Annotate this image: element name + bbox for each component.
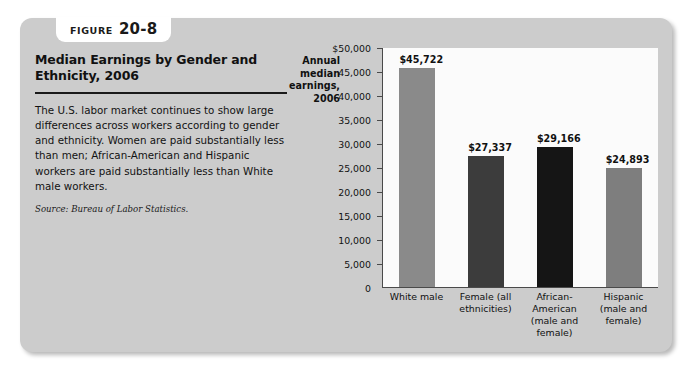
bar: $29,166 [537,147,573,287]
y-axis-tick-label: 5,000 [344,259,371,270]
y-axis-tick-label: 20,000 [338,187,371,198]
bar-value-label: $29,166 [537,133,581,144]
figure-label-word: Figure [70,25,113,36]
page-title: Median Earnings by Gender and Ethnicity,… [35,52,287,84]
bar-group: $27,337 [452,48,521,287]
bar: $27,337 [468,156,504,287]
figure-source: Source: Bureau of Labor Statistics. [35,204,287,214]
y-axis-tick-label: 35,000 [338,115,371,126]
bar-chart: 05,00010,00015,00020,00025,00030,00035,0… [325,48,658,338]
y-axis-tick-label: 25,000 [338,163,371,174]
figure-card: Figure 20-8 Median Earnings by Gender an… [20,18,672,352]
bar: $24,893 [606,168,642,287]
bar-value-label: $27,337 [468,142,512,153]
y-axis-tick-label: 45,000 [338,67,371,78]
y-axis-tick-label: 15,000 [338,211,371,222]
figure-number: 20-8 [119,20,157,38]
figure-badge: Figure 20-8 [56,17,171,42]
y-axis-tick-label: 0 [365,283,371,294]
bar-group: $45,722 [383,48,452,287]
figure-description: The U.S. labor market continues to show … [35,103,287,194]
y-axis-tick-label: 30,000 [338,139,371,150]
bar-group: $29,166 [521,48,590,287]
bar-value-label: $24,893 [606,154,650,165]
y-axis-tick-label: 10,000 [338,235,371,246]
bar-group: $24,893 [589,48,658,287]
figure-text-column: Median Earnings by Gender and Ethnicity,… [35,52,287,223]
y-axis-tick-label: $50,000 [332,43,371,54]
bar-value-label: $45,722 [399,54,443,65]
x-axis: White maleFemale (all ethnicities)Africa… [382,291,658,338]
x-axis-tick-label: White male [382,291,451,338]
plot-area: $45,722$27,337$29,166$24,893 [382,48,658,288]
bar: $45,722 [399,68,435,287]
y-axis-tick-label: 40,000 [338,91,371,102]
bar-series: $45,722$27,337$29,166$24,893 [383,48,658,287]
x-axis-tick-label: Female (all ethnicities) [451,291,520,338]
x-axis-tick-label: Hispanic (male and female) [589,291,658,338]
y-axis: 05,00010,00015,00020,00025,00030,00035,0… [325,48,377,288]
title-divider [35,92,287,94]
x-axis-tick-label: African-American (male and female) [520,291,589,338]
